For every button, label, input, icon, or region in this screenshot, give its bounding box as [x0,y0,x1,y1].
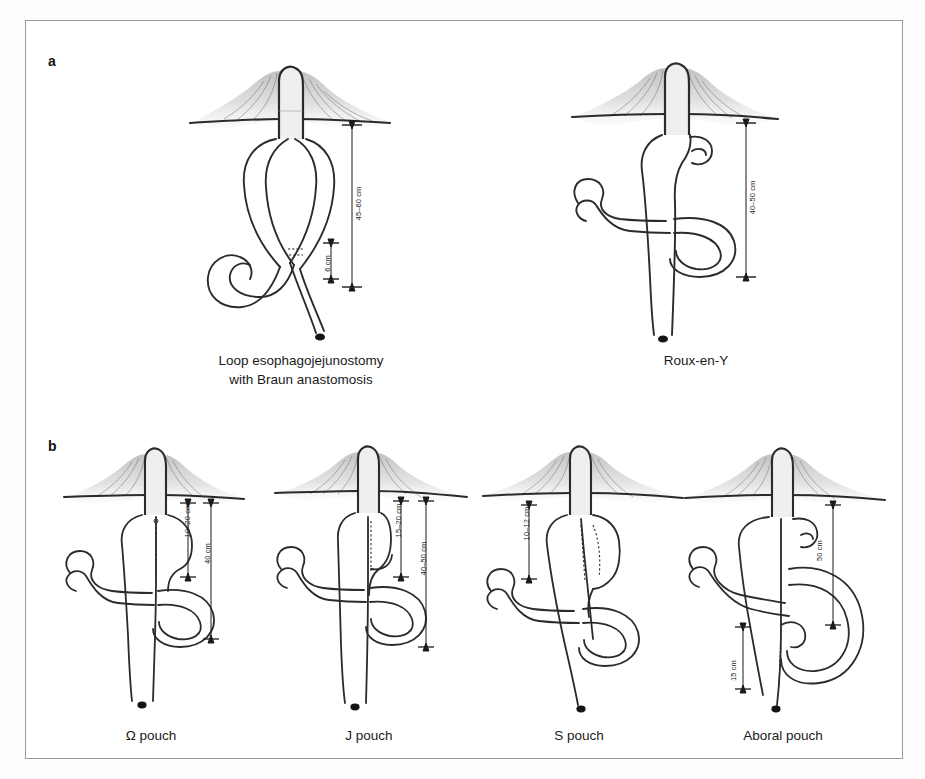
esophagus-stump [358,446,379,513]
stapled-end [771,706,780,713]
measure-label-15cm: 15 cm [729,660,738,681]
caption-s-pouch: S pouch [494,726,664,745]
measure-15cm [735,623,751,693]
figure-page: a b [0,0,925,779]
caption-omega-pouch: Ω pouch [66,726,236,745]
esophagus-stump [665,63,689,135]
measure-label-40-50cm-j: 40–50 cm [419,542,428,576]
esophagus-stump [570,446,591,515]
diagram-s-pouch [481,439,696,714]
measure-label-10-12cm: 10–12 cm [522,507,531,541]
jejunal-pouch [66,515,214,701]
roux-limb [574,135,735,335]
measure-label-6cm: 6 cm [323,255,332,272]
figure-frame: a b [25,20,903,759]
diagram-omega-pouch [56,439,271,714]
jejunal-loop [208,139,334,333]
panel-a-letter: a [48,53,56,69]
measure-label-10-20cm: 10–20 cm [183,504,192,538]
stapled-end [137,702,146,709]
measure-50cm [825,501,841,629]
jejunal-pouch [689,517,863,705]
measure-40cm [203,499,219,643]
diagram-aboral-pouch [681,439,906,714]
caption-loop-esophagojejunostomy: Loop esophagojejunostomy with Braun anas… [151,351,451,389]
jejunal-pouch [277,513,426,703]
measure-label-15-20cm: 15–20 cm [394,504,403,538]
esophagus-stump [279,67,303,139]
measure-label-45-60cm: 45–60 cm [354,187,363,221]
caption-aboral-pouch: Aboral pouch [688,726,878,745]
measure-label-40-50cm-roux: 40–50 cm [748,181,757,215]
caption-j-pouch: J pouch [284,726,454,745]
stapled-end [350,704,359,711]
measure-label-50cm: 50 cm [815,540,824,561]
stapled-end [658,335,668,342]
measure-label-40cm: 40 cm [203,543,212,564]
stapled-end [315,333,325,340]
stapled-end [576,706,585,713]
diagram-j-pouch [271,439,486,714]
esophagus-stump [145,448,166,515]
diagram-roux-en-y [566,51,796,351]
caption-roux-en-y: Roux-en-Y [596,351,796,370]
esophagus-stump [772,448,793,517]
diagram-loop-esophagojejunostomy [176,51,406,351]
jejunal-pouch [487,515,639,705]
